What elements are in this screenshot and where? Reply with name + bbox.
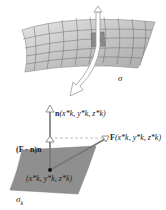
flux-diagram: σ n(x*k, y*k, z*k) F(x*k, y*k, z*k) (F ·… xyxy=(0,0,166,210)
sigma-label: σ xyxy=(118,74,122,83)
field-label: F(x*k, y*k, z*k) xyxy=(110,134,161,142)
normal-label: n(x*k, y*k, z*k) xyxy=(55,110,106,118)
point-label: (x*k, y*k, z*k) xyxy=(26,175,72,183)
sigma-k-label: σk xyxy=(16,195,23,206)
diagram-graphics xyxy=(0,0,166,210)
surface-sigma xyxy=(22,17,155,72)
projection-label: (F · n)n xyxy=(16,146,41,154)
